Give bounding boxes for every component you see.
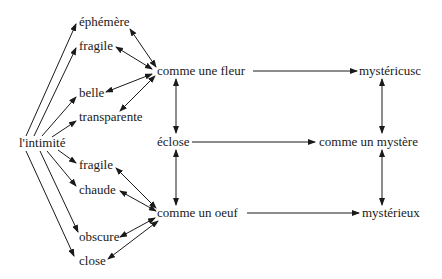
node-comme-un-oeuf: comme un oeuf: [157, 206, 238, 220]
node-comme-un-mystere: comme un mystère: [319, 135, 418, 149]
edge-intimite-ephemere: [26, 24, 76, 136]
node-belle: belle: [79, 86, 104, 100]
edge-fragile-fleur: [116, 47, 152, 69]
node-mysterieux: mystérieux: [362, 206, 420, 220]
edge-intimite-close: [26, 151, 74, 256]
node-mysterieuse: mystéricusc: [359, 64, 421, 78]
edge-ephemere-fleur: [130, 29, 156, 67]
node-intimite: l'intimité: [19, 136, 65, 150]
edge-intimite-belle: [42, 97, 76, 136]
node-fragile-bottom: fragile: [79, 158, 113, 172]
edge-intimite-obscure: [40, 151, 78, 232]
edge-intimite-chaude: [47, 151, 76, 186]
node-close: close: [79, 254, 106, 268]
edge-chaude-oeuf: [120, 191, 156, 211]
node-eclose: éclose: [157, 135, 189, 149]
node-transparente: transparente: [79, 110, 143, 124]
node-obscure: obscure: [79, 230, 119, 244]
node-chaude: chaude: [79, 183, 116, 197]
edge-intimite-fragile-bottom: [58, 150, 76, 163]
edge-transparente-fleur: [120, 76, 155, 111]
edge-fragile-oeuf: [116, 168, 156, 208]
node-ephemere: éphémère: [79, 15, 130, 29]
edge-belle-fleur: [106, 74, 152, 92]
node-comme-une-fleur: comme une fleur: [157, 64, 245, 78]
node-fragile-top: fragile: [79, 39, 113, 53]
edge-intimite-fragile-top: [34, 48, 76, 136]
